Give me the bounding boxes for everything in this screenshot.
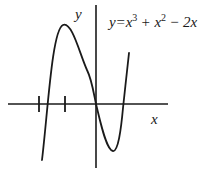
equation-label: y=x3 + x2 − 2x [109,14,197,31]
equation-term1-exponent: 3 [132,12,137,23]
equation-minus: − [169,14,179,30]
equation-term3: 2x [183,14,197,30]
equation-term2-exponent: 2 [161,12,166,23]
equation-plus: + [141,14,151,30]
y-axis-label: y [75,6,82,23]
cubic-graph-figure: y x y=x3 + x2 − 2x [0,0,204,177]
x-axis-label: x [151,111,158,128]
equation-equals: = [115,14,125,30]
cubic-curve [42,25,129,160]
